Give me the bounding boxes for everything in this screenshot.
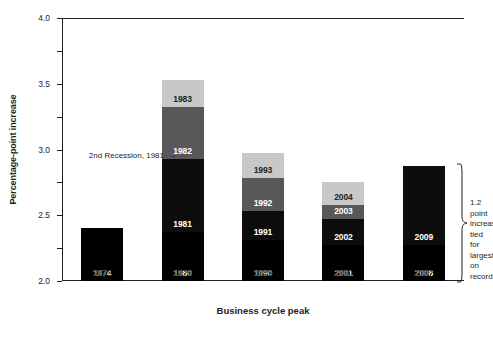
largest-increase-line-1: 1.2 point — [470, 198, 493, 219]
y-tick-label: 3.0 — [38, 145, 57, 155]
y-tick: 3.0 — [57, 84, 62, 85]
second-recession-arrow-icon: → — [167, 150, 177, 160]
bar-segment-1983[interactable]: 1983 — [162, 80, 204, 106]
y-axis-title: Percentage-point increase — [8, 18, 20, 281]
bar-segment-1991[interactable]: 1991 — [242, 211, 284, 241]
largest-increase-note: 1.2 point increase, tied for largest on … — [470, 198, 493, 282]
bar-segment-label: 1993 — [242, 165, 284, 175]
bar-segment-2004[interactable]: 2004 — [322, 182, 364, 205]
y-tick: 0 — [57, 281, 62, 282]
bar-segment-1993[interactable]: 1993 — [242, 153, 284, 178]
bar-segment-label: 2009 — [403, 232, 445, 242]
x-tick-label-1973: 1973 — [93, 268, 112, 278]
bar-segment-label: 1981 — [162, 219, 204, 229]
y-tick-label: 4.0 — [38, 13, 57, 23]
second-recession-label: 2nd Recession, 1981 — [56, 150, 164, 161]
x-tick-label-1989: 1989 — [254, 268, 273, 278]
y-tick: 0.5 — [57, 248, 62, 249]
x-axis-title: Business cycle peak — [62, 305, 464, 316]
largest-increase-line-3: tied for — [470, 230, 493, 251]
bar-segment-label: 1992 — [242, 198, 284, 208]
y-tick-label: 3.5 — [38, 79, 57, 89]
y-tick: 1.5 — [57, 182, 62, 183]
bar-segment-1992[interactable]: 1992 — [242, 178, 284, 211]
bar-segment-2002[interactable]: 2002 — [322, 219, 364, 245]
y-tick: 2.5 — [57, 117, 62, 118]
y-tick-label: 2.5 — [38, 210, 57, 220]
y-tick: 4.0 — [57, 18, 62, 19]
chart-container: Percentage-point increase Business cycle… — [0, 0, 493, 341]
bar-segment-label: 2004 — [322, 192, 364, 202]
y-tick: 3.5 — [57, 51, 62, 52]
bar-segment-2009[interactable]: 2009 — [403, 166, 445, 245]
largest-increase-line-4: largest on — [470, 251, 493, 272]
plot-top-rule — [62, 18, 464, 19]
brace-icon — [456, 163, 468, 283]
x-tick-label-1979: 1979 — [173, 268, 192, 278]
bar-segment-label: 2002 — [322, 232, 364, 242]
y-tick-label: 2.0 — [38, 276, 57, 286]
bar-2007[interactable]: 20082009 — [403, 166, 445, 281]
bar-1989[interactable]: 1990199119921993 — [242, 153, 284, 281]
x-tick-label-2007: 2007 — [414, 268, 433, 278]
bar-2000[interactable]: 2001200220032004 — [322, 182, 364, 281]
y-tick: 1.0 — [57, 215, 62, 216]
x-tick-label-2000: 2000 — [334, 268, 353, 278]
bar-segment-2003[interactable]: 2003 — [322, 205, 364, 218]
bar-segment-label: 1983 — [162, 94, 204, 104]
bar-segment-label: 1991 — [242, 227, 284, 237]
largest-increase-line-2: increase, — [470, 219, 493, 230]
bar-1979[interactable]: 1980198119821983 — [162, 80, 204, 281]
largest-increase-line-5: record — [470, 272, 493, 283]
bar-segment-label: 2003 — [322, 206, 364, 216]
bar-segment-1981[interactable]: 1981 — [162, 159, 204, 231]
